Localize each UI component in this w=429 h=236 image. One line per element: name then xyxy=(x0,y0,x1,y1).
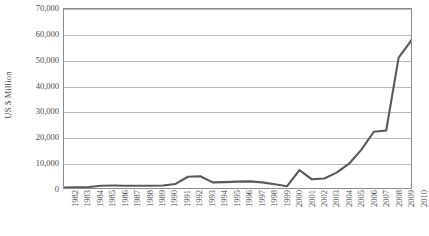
plot-area xyxy=(63,8,412,189)
x-axis-tick-label: 1993 xyxy=(208,190,217,207)
x-axis-tick-label: 2010 xyxy=(420,190,429,207)
x-axis-tick-label: 1988 xyxy=(146,190,155,207)
x-axis-tick-label: 2009 xyxy=(407,190,416,207)
x-axis-tick-label: 1991 xyxy=(183,190,192,207)
x-axis-tick-label: 1983 xyxy=(83,190,92,207)
y-axis-tick-label: 60,000 xyxy=(36,29,59,39)
y-axis-tick-label: 70,000 xyxy=(36,3,59,13)
x-axis-tick-label: 1982 xyxy=(71,190,80,207)
x-axis-tick-label: 1999 xyxy=(283,190,292,207)
x-axis-tick-label: 2001 xyxy=(308,190,317,207)
x-axis-tick-label: 2000 xyxy=(295,190,304,207)
y-axis-tick-label: 10,000 xyxy=(36,158,59,168)
x-axis-tick-label: 2008 xyxy=(395,190,404,207)
x-axis-tick-label: 2006 xyxy=(370,190,379,207)
x-axis-tick-label: 1998 xyxy=(270,190,279,207)
series-polyline xyxy=(64,14,411,187)
y-axis-tick-label: 40,000 xyxy=(36,81,59,91)
x-axis-tick-label: 1990 xyxy=(170,190,179,207)
y-axis-tick-label: 20,000 xyxy=(36,132,59,142)
x-axis-tick-label: 1989 xyxy=(158,190,167,207)
y-axis-tick-label: 0 xyxy=(55,184,59,194)
x-axis-tick-label: 1985 xyxy=(108,190,117,207)
x-axis-tick-label: 1987 xyxy=(133,190,142,207)
y-axis-tick-labels: 70,00060,00050,00040,00030,00020,00010,0… xyxy=(16,8,62,189)
series-line-chart xyxy=(64,9,411,188)
y-axis-title: US $ Million xyxy=(0,0,16,190)
x-axis-tick-label: 1996 xyxy=(245,190,254,207)
y-axis-tick-label: 50,000 xyxy=(36,55,59,65)
x-axis-tick-label: 1986 xyxy=(121,190,130,207)
x-axis-tick-label: 1994 xyxy=(220,190,229,207)
x-axis-tick-label: 2007 xyxy=(382,190,391,207)
y-axis-title-label: US $ Million xyxy=(3,71,13,118)
x-axis-tick-label: 2002 xyxy=(320,190,329,207)
x-axis-tick-label: 1995 xyxy=(233,190,242,207)
x-axis-tick-label: 2005 xyxy=(357,190,366,207)
x-axis-tick-label: 2003 xyxy=(332,190,341,207)
x-axis-tick-label: 1992 xyxy=(195,190,204,207)
y-axis-tick-label: 30,000 xyxy=(36,106,59,116)
x-axis-tick-label: 1997 xyxy=(258,190,267,207)
x-axis-tick-label: 1984 xyxy=(96,190,105,207)
x-axis-tick-labels: 1982198319841985198619871988198919901991… xyxy=(63,190,412,226)
figure-caption xyxy=(63,228,403,236)
x-axis-tick-label: 2004 xyxy=(345,190,354,207)
